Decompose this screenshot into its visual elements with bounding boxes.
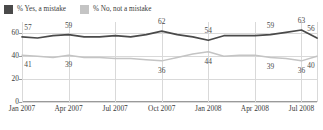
data-label-no: 44 — [205, 58, 212, 65]
x-tick-label: Jan 2007 — [9, 104, 35, 113]
x-tick-label: Oct 2007 — [148, 104, 175, 113]
data-label-yes: 62 — [158, 18, 165, 25]
data-label-no: 40 — [307, 63, 314, 70]
y-gridline — [22, 102, 317, 103]
data-label-no: 39 — [267, 64, 274, 71]
data-label-yes: 57 — [24, 24, 31, 31]
legend-item-yes: % Yes, a mistake — [4, 5, 66, 14]
line-chart: % Yes, a mistake % No, not a mistake 020… — [0, 0, 323, 130]
y-tick-label: 20 — [12, 75, 19, 82]
chart-legend: % Yes, a mistake % No, not a mistake — [4, 3, 165, 16]
data-label-no: 36 — [158, 67, 165, 74]
y-tick-label: 60 — [12, 30, 19, 37]
x-tick-label: Jan 2008 — [195, 104, 221, 113]
legend-label-yes: % Yes, a mistake — [17, 5, 66, 14]
y-tick-mark — [19, 102, 22, 103]
data-label-no: 36 — [298, 67, 305, 74]
y-tick-label: 40 — [12, 53, 19, 60]
data-label-yes: 59 — [65, 22, 72, 29]
data-label-no: 41 — [24, 61, 31, 68]
data-label-yes: 54 — [205, 28, 212, 35]
x-tick-label: Jul 2008 — [289, 104, 314, 113]
x-gridline — [317, 22, 318, 102]
data-label-no: 39 — [65, 61, 72, 68]
legend-swatch-yes-icon — [4, 5, 13, 14]
data-label-yes: 59 — [267, 22, 274, 29]
x-tick-label: Apr 2008 — [241, 104, 269, 113]
x-axis-labels: Jan 2007Apr 2007Jul 2007Oct 2007Jan 2008… — [0, 104, 323, 118]
x-tick-label: Apr 2007 — [55, 104, 83, 113]
x-tick-label: Jul 2007 — [103, 104, 128, 113]
legend-swatch-no-icon — [80, 5, 89, 14]
data-label-yes: 63 — [298, 17, 305, 24]
legend-label-no: % No, not a mistake — [93, 5, 152, 14]
plot-area: 02040605759625459635641393644393640 — [22, 22, 317, 102]
legend-item-no: % No, not a mistake — [80, 5, 152, 14]
series-line-yes — [22, 30, 317, 40]
data-label-yes: 56 — [307, 25, 314, 32]
